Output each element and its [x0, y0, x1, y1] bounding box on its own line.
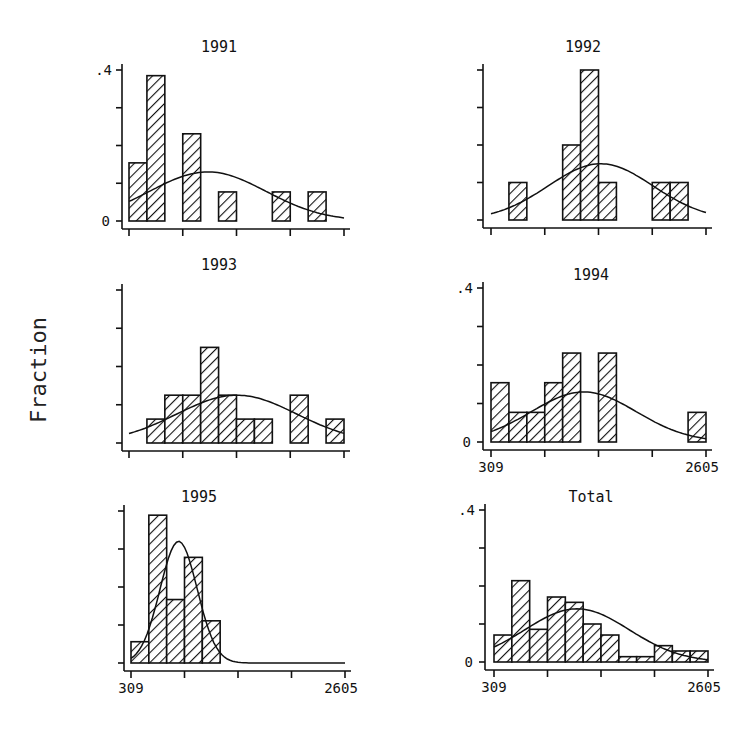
panel-1991: 1991.40 [95, 38, 350, 236]
x-tick-label-max: 2605 [685, 459, 719, 475]
histogram-bar [219, 192, 237, 221]
histogram-bar [563, 145, 581, 220]
panel-title: 1992 [565, 38, 601, 56]
histogram-bar [147, 76, 165, 221]
histogram-bar [512, 581, 530, 662]
panel-title: 1995 [181, 488, 217, 506]
histogram-bar [601, 635, 619, 662]
histogram-bar [237, 419, 255, 443]
x-tick-label-max: 2605 [687, 679, 721, 695]
histogram-bar [581, 70, 599, 220]
y-tick-label-top: .4 [456, 280, 473, 296]
histogram-bar [131, 642, 149, 663]
histogram-bar [129, 163, 147, 221]
histogram-bar [491, 383, 509, 442]
histogram-bar [652, 183, 670, 221]
panel-title: 1994 [573, 266, 609, 284]
histogram-bar [149, 515, 167, 663]
x-tick-label-min: 309 [118, 680, 143, 696]
histogram-bar [545, 383, 563, 442]
histogram-bar [254, 419, 272, 443]
histogram-bar [530, 629, 548, 662]
panel-title: Total [568, 488, 613, 506]
y-tick-label-zero: 0 [465, 654, 473, 670]
panel-1992: 1992 [477, 38, 712, 235]
histogram-bar [565, 602, 583, 662]
panel-1994: 1994.403092605 [456, 266, 719, 475]
histogram-bar [527, 412, 545, 442]
panel-total: Total.403092605 [458, 488, 721, 695]
histogram-figure: Fraction 1991.40199219931994.40309260519… [0, 0, 737, 729]
y-tick-label-zero: 0 [102, 213, 110, 229]
histogram-bar [219, 395, 237, 443]
panel-1993: 1993 [116, 256, 350, 458]
panels-container: 1991.40199219931994.40309260519953092605… [95, 38, 721, 696]
histogram-bar [290, 395, 308, 443]
y-tick-label-top: .4 [458, 502, 475, 518]
panel-title: 1993 [201, 256, 237, 274]
x-tick-label-max: 2605 [324, 680, 358, 696]
histogram-bar [548, 597, 566, 662]
panel-1995: 19953092605 [118, 488, 358, 696]
histogram-bar [147, 419, 165, 443]
histogram-bar [183, 134, 201, 221]
histogram-bar [509, 412, 527, 442]
histogram-bar [637, 657, 655, 662]
x-tick-label-min: 309 [481, 679, 506, 695]
panel-title: 1991 [201, 38, 237, 56]
histogram-bar [202, 621, 220, 663]
histogram-bar [563, 353, 581, 442]
y-tick-label-top: .4 [95, 62, 112, 78]
y-tick-label-zero: 0 [463, 434, 471, 450]
histogram-bar [583, 624, 601, 662]
histogram-bar [308, 192, 326, 221]
histogram-bar [167, 600, 185, 663]
x-tick-label-min: 309 [478, 459, 503, 475]
histogram-bar [690, 651, 708, 662]
histogram-bar [599, 183, 617, 221]
y-axis-label: Fraction [26, 317, 51, 423]
histogram-bar [619, 657, 637, 662]
histogram-bar [201, 347, 219, 443]
histogram-bar [183, 395, 201, 443]
